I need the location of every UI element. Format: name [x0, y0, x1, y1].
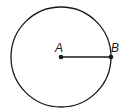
- circle-diagram: A B: [0, 0, 127, 108]
- label-b: B: [111, 41, 119, 55]
- point-a-dot: [59, 55, 64, 60]
- point-b-dot: [109, 55, 114, 60]
- label-a: A: [54, 41, 63, 55]
